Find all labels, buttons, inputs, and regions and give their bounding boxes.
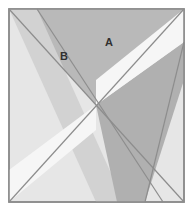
region-label-a: A (105, 36, 113, 48)
geometry-figure: A B (0, 0, 193, 211)
figure-canvas: A B (0, 0, 193, 211)
region-label-b: B (60, 50, 68, 62)
